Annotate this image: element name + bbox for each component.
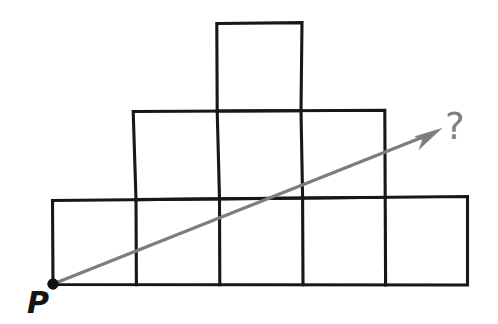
top-square-outline [217, 23, 302, 111]
point-p-label: P [27, 288, 49, 318]
point-p-dot [48, 279, 58, 289]
middle-row-divider-1 [217, 111, 219, 199]
ray-from-point-p [53, 129, 442, 285]
bottom-row-squares [53, 197, 468, 286]
squares-and-ray-diagram [0, 0, 498, 324]
middle-row-squares [133, 110, 385, 199]
top-row-square [217, 23, 302, 111]
unknown-angle-question-label: ? [445, 108, 465, 145]
figure-canvas: P ? [0, 0, 498, 324]
bottom-row-outline [53, 197, 468, 286]
middle-row-outline [133, 110, 385, 199]
ray-shaft [53, 135, 428, 284]
